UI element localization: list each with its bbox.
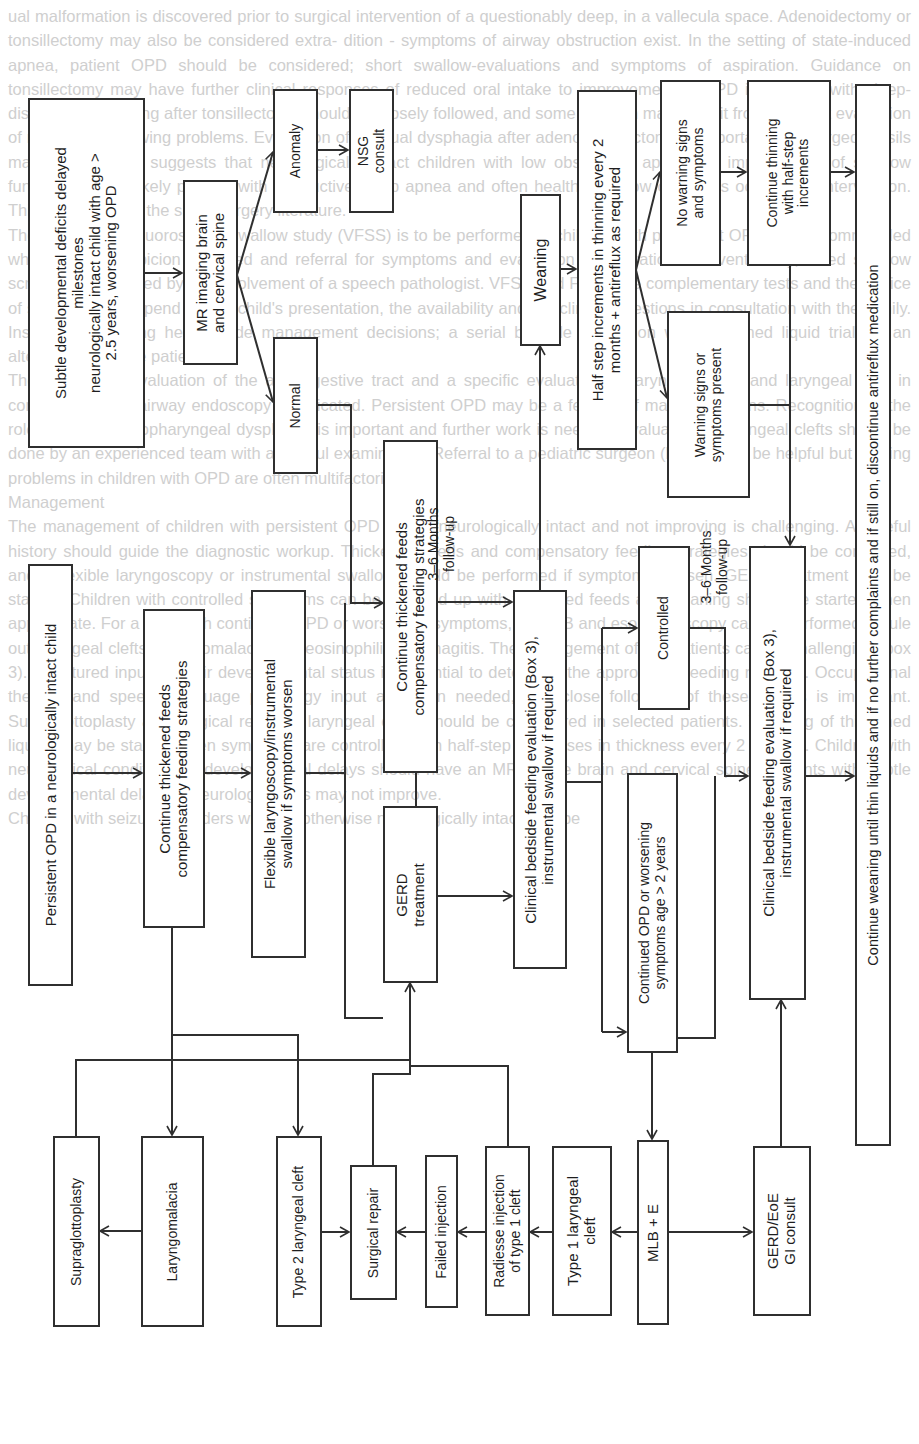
box-text: Type 2 laryngeal cleft — [291, 1139, 307, 1324]
box-text: Supraglottoplasty — [69, 1139, 85, 1324]
box-continue-thickened-feeds-2: Continue thickened feeds compensatory fe… — [383, 440, 438, 773]
box-text: Flexible laryngoscopy/instrumental swall… — [262, 594, 296, 954]
box-text: MLB + E — [645, 1143, 662, 1323]
box-text: Type 1 laryngeal cleft — [565, 1149, 599, 1314]
label-followup-1: 3–6 Months follow-up — [421, 495, 463, 593]
box-text: Continue thickened feeds compensatory fe… — [157, 614, 191, 924]
box-text: Surgical repair — [366, 1168, 382, 1298]
box-controlled: Controlled — [638, 546, 690, 710]
box-normal: Normal — [273, 337, 318, 474]
box-warning-signs-present: Warning signs or symptoms present — [667, 311, 750, 498]
box-nsg-consult: NSG consult — [349, 89, 394, 213]
box-text: MR imaging brain and cervical spine — [194, 183, 228, 363]
label-text: 3–6 Months follow-up — [426, 495, 457, 593]
box-text: No warning signs and symptoms — [675, 83, 706, 263]
box-text: Continue thinning with half-step increme… — [765, 83, 812, 263]
box-continue-thickened-feeds-1: Continue thickened feeds compensatory fe… — [143, 609, 205, 928]
box-continued-opd-worsening: Continued OPD or worsening symptoms age … — [627, 773, 678, 1053]
box-text: Continued OPD or worsening symptoms age … — [637, 777, 668, 1049]
box-radiesse-injection: Radiesse injection of type 1 cleft — [485, 1146, 530, 1316]
box-weaning: Weaning — [520, 194, 561, 346]
box-text: Weaning — [532, 196, 550, 344]
box-text: Warning signs or symptoms present — [693, 315, 724, 495]
box-clinical-bedside-evaluation-1: Clinical bedside feeding evaluation (Box… — [513, 590, 567, 969]
box-mr-imaging: MR imaging brain and cervical spine — [183, 180, 238, 365]
box-type2-laryngeal-cleft: Type 2 laryngeal cleft — [276, 1136, 322, 1327]
box-text: Continue thickened feeds compensatory fe… — [394, 444, 428, 769]
box-text: Subtle developmental deficits delayed mi… — [53, 103, 120, 443]
box-anomaly: Anomaly — [273, 89, 318, 213]
label-text: 3–6 Months follow-up — [699, 517, 730, 617]
box-text: Clinical bedside feeding evaluation (Box… — [523, 595, 557, 965]
box-text: Half step increments in thinning every 2… — [590, 94, 624, 446]
box-half-step-increments: Half step increments in thinning every 2… — [577, 90, 637, 450]
box-continue-weaning-discontinue-antireflux: Continue weaning until thin liquids and … — [855, 84, 891, 1146]
box-text: Persistent OPD in a neurologically intac… — [42, 568, 59, 983]
box-text: GERD/EoE GI consult — [765, 1149, 799, 1314]
label-followup-2: 3–6 Months follow-up — [694, 516, 736, 618]
box-text: GERD treatment — [394, 810, 428, 980]
box-text: Normal — [288, 341, 304, 471]
box-text: Failed injection — [434, 1158, 450, 1306]
box-persistent-opd: Persistent OPD in a neurologically intac… — [28, 564, 73, 986]
box-text: Radiesse injection of type 1 cleft — [492, 1149, 523, 1314]
box-text: Clinical bedside feeding evaluation (Box… — [761, 553, 795, 993]
box-text: Anomaly — [288, 91, 304, 211]
box-subtle-developmental-deficits: Subtle developmental deficits delayed mi… — [28, 98, 145, 448]
box-laryngomalacia: Laryngomalacia — [141, 1136, 204, 1327]
box-type1-laryngeal-cleft: Type 1 laryngeal cleft — [552, 1146, 612, 1316]
box-supraglottoplasty: Supraglottoplasty — [53, 1136, 100, 1327]
box-flexible-laryngoscopy: Flexible laryngoscopy/instrumental swall… — [251, 590, 306, 958]
box-surgical-repair: Surgical repair — [350, 1165, 397, 1300]
box-text: Controlled — [656, 548, 672, 708]
box-no-warning-signs: No warning signs and symptoms — [660, 80, 721, 266]
box-continue-thinning: Continue thinning with half-step increme… — [747, 80, 831, 266]
box-failed-injection: Failed injection — [425, 1155, 458, 1308]
box-mlb-e: MLB + E — [637, 1140, 669, 1325]
box-text: NSG consult — [356, 91, 387, 211]
box-gerd-eoe-gi-consult: GERD/EoE GI consult — [753, 1146, 811, 1316]
box-clinical-bedside-evaluation-2: Clinical bedside feeding evaluation (Box… — [749, 546, 806, 1000]
box-text: Continue weaning until thin liquids and … — [865, 90, 881, 1140]
box-gerd-treatment: GERD treatment — [383, 806, 438, 983]
box-text: Laryngomalacia — [165, 1139, 181, 1324]
